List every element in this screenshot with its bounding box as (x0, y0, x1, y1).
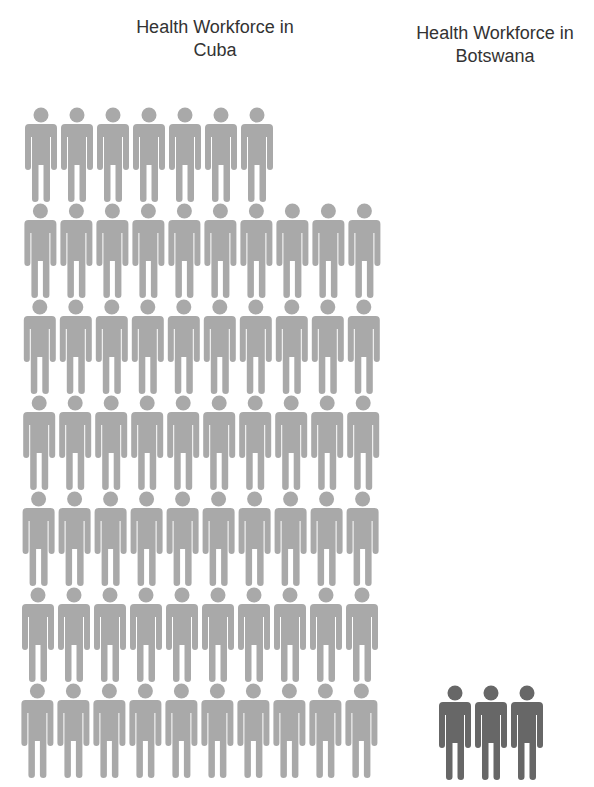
cuba-person-icon (348, 204, 380, 299)
cuba-person-icon (131, 492, 163, 587)
cuba-person-icon (95, 492, 127, 587)
cuba-person-icon (165, 684, 197, 779)
cuba-person-icon (276, 204, 308, 299)
cuba-person-icon (345, 684, 377, 779)
cuba-person-icon (202, 588, 234, 683)
cuba-person-icon (22, 588, 54, 683)
cuba-person-icon (312, 300, 344, 395)
cuba-person-icon (24, 300, 56, 395)
cuba-person-icon (201, 684, 233, 779)
cuba-person-icon (94, 588, 126, 683)
cuba-person-icon (347, 396, 379, 491)
cuba-person-icon (132, 204, 164, 299)
cuba-person-icon (59, 492, 91, 587)
cuba-person-icon (131, 396, 163, 491)
cuba-person-icon (23, 492, 55, 587)
cuba-person-icon (96, 300, 128, 395)
cuba-person-icon (95, 396, 127, 491)
cuba-person-icon (311, 492, 343, 587)
cuba-person-icon (310, 588, 342, 683)
cuba-person-icon (240, 300, 272, 395)
cuba-person-icon (96, 204, 128, 299)
cuba-person-icon (347, 492, 379, 587)
cuba-person-icon (203, 396, 235, 491)
cuba-person-icon (166, 588, 198, 683)
cuba-person-icon (237, 684, 269, 779)
cuba-pictogram (21, 108, 380, 779)
cuba-person-icon (59, 396, 91, 491)
cuba-person-icon (61, 108, 93, 203)
cuba-person-icon (205, 108, 237, 203)
botswana-pictogram (439, 686, 543, 781)
cuba-person-icon (23, 396, 55, 491)
cuba-person-icon (57, 684, 89, 779)
cuba-person-icon (167, 492, 199, 587)
cuba-person-icon (24, 204, 56, 299)
cuba-person-icon (204, 204, 236, 299)
cuba-person-icon (169, 108, 201, 203)
cuba-person-icon (133, 108, 165, 203)
cuba-person-icon (309, 684, 341, 779)
cuba-person-icon (204, 300, 236, 395)
cuba-person-icon (97, 108, 129, 203)
cuba-person-icon (346, 588, 378, 683)
cuba-person-icon (60, 204, 92, 299)
cuba-person-icon (241, 108, 273, 203)
botswana-person-icon (511, 686, 543, 781)
cuba-person-icon (273, 684, 305, 779)
cuba-person-icon (275, 396, 307, 491)
cuba-person-icon (239, 492, 271, 587)
cuba-person-icon (168, 204, 200, 299)
cuba-person-icon (276, 300, 308, 395)
cuba-person-icon (60, 300, 92, 395)
cuba-person-icon (240, 204, 272, 299)
cuba-person-icon (348, 300, 380, 395)
cuba-person-icon (25, 108, 57, 203)
cuba-person-icon (132, 300, 164, 395)
cuba-person-icon (311, 396, 343, 491)
cuba-person-icon (168, 300, 200, 395)
cuba-person-icon (130, 588, 162, 683)
botswana-person-icon (439, 686, 471, 781)
cuba-person-icon (129, 684, 161, 779)
cuba-person-icon (312, 204, 344, 299)
cuba-person-icon (275, 492, 307, 587)
cuba-person-icon (203, 492, 235, 587)
cuba-person-icon (274, 588, 306, 683)
cuba-person-icon (167, 396, 199, 491)
botswana-person-icon (475, 686, 507, 781)
cuba-person-icon (239, 396, 271, 491)
pictogram-chart (0, 0, 594, 787)
cuba-person-icon (21, 684, 53, 779)
cuba-person-icon (238, 588, 270, 683)
cuba-person-icon (93, 684, 125, 779)
cuba-person-icon (58, 588, 90, 683)
